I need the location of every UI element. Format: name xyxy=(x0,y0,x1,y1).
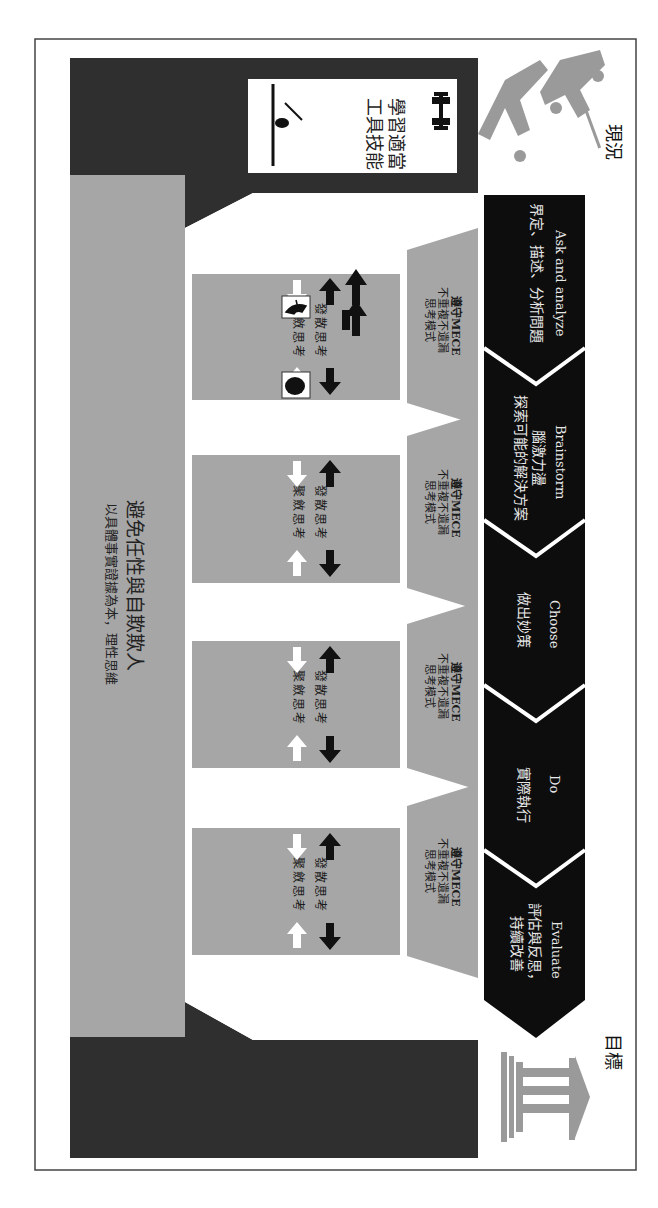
pillar-3-convergent: 聚斂思考 xyxy=(291,670,308,726)
step-1-zh: 界定、描述、分析問題 xyxy=(528,203,548,343)
pillar-2-convergent: 聚斂思考 xyxy=(291,485,308,541)
skills-line-2: 適當 xyxy=(386,134,407,170)
pillar-2-divergent: 發散思考 xyxy=(313,485,330,541)
skills-line-1: 學習 xyxy=(386,98,407,134)
skills-line-4: 技能 xyxy=(364,134,385,170)
pillar-1-capital-3: 思考模式 xyxy=(423,298,439,342)
pillar-4-divergent: 發散思考 xyxy=(313,857,330,913)
pillar-3-divergent: 發散思考 xyxy=(313,670,330,726)
pillar-1-divergent: 發散思考 xyxy=(313,303,330,359)
step-1-en: Ask and analyze xyxy=(553,230,568,337)
pillar-3-capital-3: 思考模式 xyxy=(423,664,439,708)
step-5-en: Evaluate xyxy=(549,921,564,979)
goal-label: 目標 xyxy=(602,1034,628,1070)
pillar-4-capital-3: 思考模式 xyxy=(423,849,439,893)
step-3-zh: 做出妙策 xyxy=(515,592,535,648)
foundation-subtitle: 以具體事實證據為本，理性思維 xyxy=(103,503,122,685)
foundation-title: 避免任性與自欺欺人 xyxy=(123,500,150,671)
step-2-zh: 腦激力盪 xyxy=(530,430,550,486)
skills-text: 學習適當 工具技能 技能 xyxy=(341,98,407,170)
step-4-zh: 實際執行 xyxy=(515,767,535,823)
skills-line-3: 工具 xyxy=(364,98,385,134)
step-5-zh: 評估與反思， xyxy=(526,903,546,987)
step-2-en: Brainstorm xyxy=(553,425,568,499)
step-2-zh2: 探索可能的解決方案 xyxy=(512,395,532,521)
step-3-en: Choose xyxy=(547,600,562,648)
step-4-en: Do xyxy=(547,775,562,793)
current-state-label: 現況 xyxy=(602,124,628,160)
step-5-zh2: 持續改善 xyxy=(508,916,528,972)
pillar-4-convergent: 聚斂思考 xyxy=(291,857,308,913)
pillar-2-capital-3: 思考模式 xyxy=(423,480,439,524)
pillar-1-convergent: 聚斂思考 xyxy=(291,303,308,359)
